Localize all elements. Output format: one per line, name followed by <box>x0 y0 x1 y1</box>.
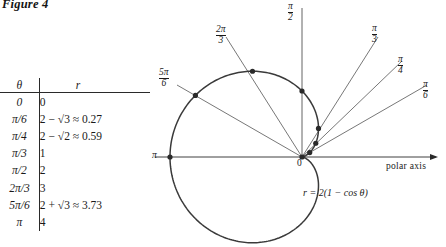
cell-r: 2 <box>39 162 150 179</box>
polar-values-table-container: θr00π/62 − √3 ≈ 0.27π/42 − √2 ≈ 0.59π/31… <box>0 78 150 231</box>
ray-label-pi-over-4: π 4 <box>398 55 403 75</box>
axis-label-pi: π <box>152 150 157 160</box>
table-row: 2π/33 <box>0 179 150 196</box>
ray-label-2pi-over-3: 2π 3 <box>216 25 226 45</box>
cell-r: 2 − √2 ≈ 0.59 <box>39 127 150 144</box>
cell-r: 1 <box>39 145 150 162</box>
table-row: 5π/62 + √3 ≈ 3.73 <box>0 196 150 213</box>
header-r: r <box>39 78 150 92</box>
table-row: π/42 − √2 ≈ 0.59 <box>0 127 150 144</box>
polar-plot: π 2 2π 3 5π 6 π 3 π 4 π 6 π 0 polar axi <box>150 0 446 247</box>
polar-plot-svg <box>150 0 446 247</box>
data-point-marker <box>193 93 198 98</box>
polar-axis-label: polar axis <box>386 161 426 171</box>
ray-label-pi-over-6: π 6 <box>423 80 428 100</box>
ray-label-5pi-over-6: 5π 6 <box>159 68 169 88</box>
data-point-marker <box>167 154 172 159</box>
cell-theta: π/6 <box>0 110 39 127</box>
ray-pi-over-3 <box>302 37 378 157</box>
polar-values-table: θr00π/62 − √3 ≈ 0.27π/42 − √2 ≈ 0.59π/31… <box>0 78 150 231</box>
figure-title: Figure 4 <box>2 0 48 12</box>
cell-r: 2 + √3 ≈ 3.73 <box>39 196 150 213</box>
ray-label-pi-over-3: π 3 <box>372 24 377 44</box>
cell-theta: π/3 <box>0 145 39 162</box>
cell-theta: 5π/6 <box>0 196 39 213</box>
equation-label: r = 2(1 − cos θ) <box>303 187 368 198</box>
table-row: π4 <box>0 213 150 230</box>
cell-theta: 2π/3 <box>0 179 39 196</box>
table-row: 00 <box>0 93 150 111</box>
cell-theta: π <box>0 213 39 230</box>
cell-r: 2 − √3 ≈ 0.27 <box>39 110 150 127</box>
ray-2pi-over-3 <box>226 37 302 157</box>
data-point-marker <box>313 141 318 146</box>
cell-theta: π/2 <box>0 162 39 179</box>
cell-r: 0 <box>39 93 150 111</box>
origin-label: 0 <box>297 158 302 168</box>
cell-r: 4 <box>39 213 150 230</box>
header-theta: θ <box>0 78 39 92</box>
cell-theta: π/4 <box>0 127 39 144</box>
data-point-marker <box>307 150 312 155</box>
table-header-row: θr <box>0 78 150 92</box>
table-row: π/31 <box>0 145 150 162</box>
ray-label-pi-over-2: π 2 <box>288 2 293 22</box>
ray-pi-over-6 <box>302 85 427 157</box>
data-point-marker <box>299 88 304 93</box>
table-row: π/62 − √3 ≈ 0.27 <box>0 110 150 127</box>
data-point-marker <box>316 126 321 131</box>
cell-theta: 0 <box>0 93 39 111</box>
table-row: π/22 <box>0 162 150 179</box>
data-point-marker <box>250 69 255 74</box>
cell-r: 3 <box>39 179 150 196</box>
cardioid-point-markers <box>167 69 321 160</box>
polar-axis-arrowhead <box>430 154 438 160</box>
